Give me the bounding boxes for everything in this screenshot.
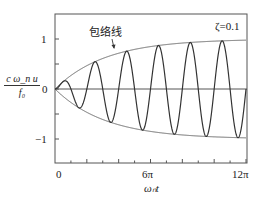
y-axis-label: c ω_n u f₀ (4, 73, 40, 98)
x-tick-label-6pi: 6π (142, 169, 153, 180)
envelope-label: 包络线 (89, 27, 122, 38)
envelope-pointer-arrow-icon (112, 45, 116, 50)
x-tick-label-12pi: 12π (232, 169, 249, 180)
envelope-lower (55, 89, 246, 138)
x-tick-label-0: 0 (56, 169, 62, 180)
y-tick-label-0: 0 (42, 84, 48, 95)
x-axis-label: ωₙt (144, 183, 159, 194)
y-axis-label-numerator: c ω_n u (4, 73, 40, 86)
y-axis-label-denominator: f₀ (4, 86, 40, 98)
y-tick-label-1: 1 (41, 34, 47, 45)
y-tick-label-minus-1: −1 (35, 134, 47, 145)
zeta-label: ζ=0.1 (215, 21, 240, 32)
x-ticks (71, 159, 246, 163)
